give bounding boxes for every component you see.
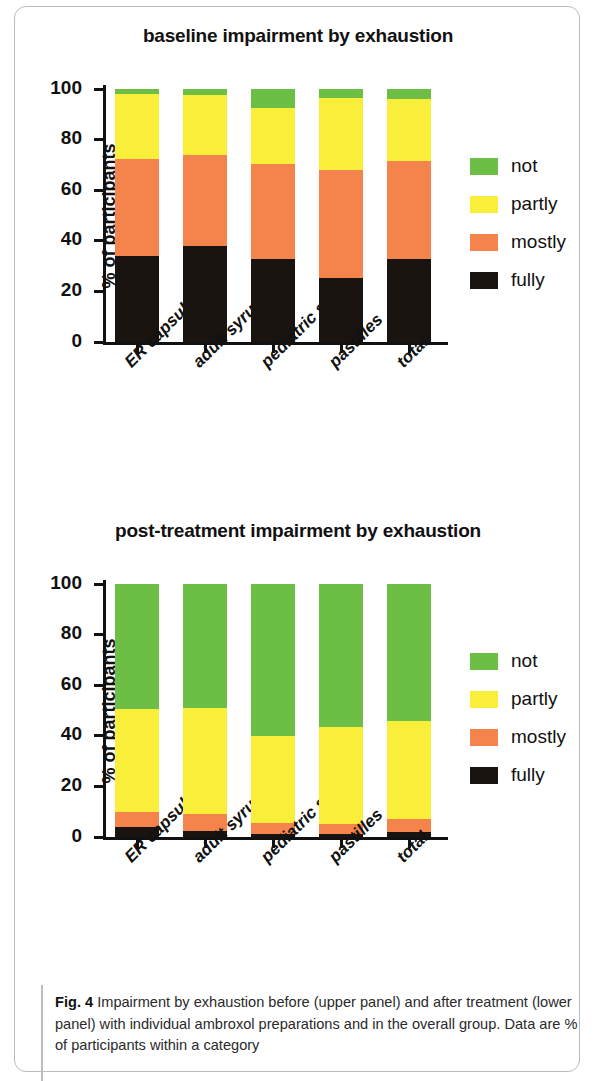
legend-swatch-partly — [470, 196, 498, 213]
legend-item-not: not — [470, 147, 590, 185]
caption-rule — [41, 985, 43, 1081]
legend-swatch-fully — [470, 767, 498, 784]
legend-label-fully: fully — [511, 764, 545, 786]
bar-segment-mostly — [319, 170, 363, 278]
bar-lower-0[interactable] — [115, 584, 159, 837]
figure-caption-label: Fig. 4 — [55, 994, 93, 1010]
y-tick-label-upper-100: 100 — [50, 76, 82, 98]
bar-segment-not — [387, 89, 431, 99]
bar-upper-3[interactable] — [319, 89, 363, 342]
y-tick-upper-100: 100 — [94, 88, 103, 91]
chart-panel-upper: baseline impairment by exhaustion % of p… — [15, 17, 581, 457]
bar-lower-2[interactable] — [251, 584, 295, 837]
y-tick-label-upper-0: 0 — [71, 329, 82, 351]
y-tick-lower-100: 100 — [94, 583, 103, 586]
bar-segment-partly — [183, 95, 227, 154]
legend-label-partly: partly — [511, 688, 557, 710]
bar-upper-0[interactable] — [115, 89, 159, 342]
y-tick-label-upper-60: 60 — [61, 177, 82, 199]
bar-lower-4[interactable] — [387, 584, 431, 837]
legend-label-mostly: mostly — [511, 726, 566, 748]
legend-swatch-not — [470, 158, 498, 175]
y-tick-lower-80: 80 — [94, 633, 103, 636]
bar-segment-not — [115, 584, 159, 709]
bar-segment-partly — [115, 94, 159, 159]
bar-segment-not — [183, 89, 227, 95]
y-tick-upper-40: 40 — [94, 239, 103, 242]
bar-segment-not — [319, 89, 363, 98]
bar-segment-not — [251, 584, 295, 736]
bar-lower-1[interactable] — [183, 584, 227, 837]
legend-label-partly: partly — [511, 193, 557, 215]
bar-segment-partly — [319, 727, 363, 824]
bar-segment-not — [251, 89, 295, 108]
legend-label-not: not — [511, 650, 537, 672]
y-tick-label-lower-60: 60 — [61, 672, 82, 694]
bar-segment-partly — [183, 708, 227, 814]
y-tick-upper-80: 80 — [94, 138, 103, 141]
bar-segment-partly — [115, 709, 159, 811]
legend-swatch-not — [470, 653, 498, 670]
bar-segment-fully — [387, 259, 431, 342]
bar-segment-not — [183, 584, 227, 708]
y-tick-lower-0: 0 — [94, 836, 103, 839]
bar-segment-mostly — [183, 155, 227, 246]
figure-card: baseline impairment by exhaustion % of p… — [14, 6, 580, 1072]
legend-item-partly: partly — [470, 185, 590, 223]
legend-upper: not partly mostly fully — [470, 147, 590, 299]
legend-swatch-partly — [470, 691, 498, 708]
bar-lower-3[interactable] — [319, 584, 363, 837]
y-tick-lower-40: 40 — [94, 734, 103, 737]
legend-item-not: not — [470, 642, 590, 680]
legend-item-fully: fully — [470, 756, 590, 794]
legend-label-mostly: mostly — [511, 231, 566, 253]
y-tick-upper-60: 60 — [94, 189, 103, 192]
bar-segment-partly — [319, 98, 363, 170]
bar-segment-not — [319, 584, 363, 727]
bar-segment-not — [115, 89, 159, 94]
legend-swatch-fully — [470, 272, 498, 289]
y-tick-label-upper-80: 80 — [61, 127, 82, 149]
legend-item-mostly: mostly — [470, 718, 590, 756]
bar-segment-mostly — [387, 161, 431, 258]
y-tick-lower-60: 60 — [94, 684, 103, 687]
figure-caption-text: Impairment by exhaustion before (upper p… — [55, 994, 577, 1053]
legend-label-fully: fully — [511, 269, 545, 291]
chart-title-upper: baseline impairment by exhaustion — [15, 25, 581, 47]
bar-upper-4[interactable] — [387, 89, 431, 342]
bar-upper-1[interactable] — [183, 89, 227, 342]
bar-segment-partly — [251, 736, 295, 823]
y-tick-label-upper-40: 40 — [61, 228, 82, 250]
bar-segment-mostly — [387, 819, 431, 832]
bar-segment-partly — [387, 721, 431, 820]
legend-swatch-mostly — [470, 729, 498, 746]
bar-upper-2[interactable] — [251, 89, 295, 342]
legend-item-mostly: mostly — [470, 223, 590, 261]
y-tick-label-lower-20: 20 — [61, 773, 82, 795]
bar-segment-mostly — [115, 159, 159, 256]
y-tick-upper-20: 20 — [94, 290, 103, 293]
bar-segment-partly — [251, 108, 295, 164]
bar-segment-not — [387, 584, 431, 721]
y-tick-upper-0: 0 — [94, 341, 103, 344]
plot-area-upper: % of participants 020406080100ER capsule… — [103, 89, 443, 342]
y-tick-label-lower-0: 0 — [71, 824, 82, 846]
bar-segment-partly — [387, 99, 431, 161]
plot-area-lower: % of participants 020406080100ER capsule… — [103, 584, 443, 837]
chart-panel-lower: post-treatment impairment by exhaustion … — [15, 512, 581, 952]
legend-item-partly: partly — [470, 680, 590, 718]
bar-segment-mostly — [251, 164, 295, 259]
figure-caption: Fig. 4 Impairment by exhaustion before (… — [55, 992, 585, 1057]
y-tick-label-upper-20: 20 — [61, 278, 82, 300]
legend-lower: not partly mostly fully — [470, 642, 590, 794]
legend-swatch-mostly — [470, 234, 498, 251]
y-tick-lower-20: 20 — [94, 785, 103, 788]
y-tick-label-lower-40: 40 — [61, 723, 82, 745]
legend-item-fully: fully — [470, 261, 590, 299]
chart-title-lower: post-treatment impairment by exhaustion — [15, 520, 581, 542]
legend-label-not: not — [511, 155, 537, 177]
y-tick-label-lower-100: 100 — [50, 571, 82, 593]
y-tick-label-lower-80: 80 — [61, 622, 82, 644]
